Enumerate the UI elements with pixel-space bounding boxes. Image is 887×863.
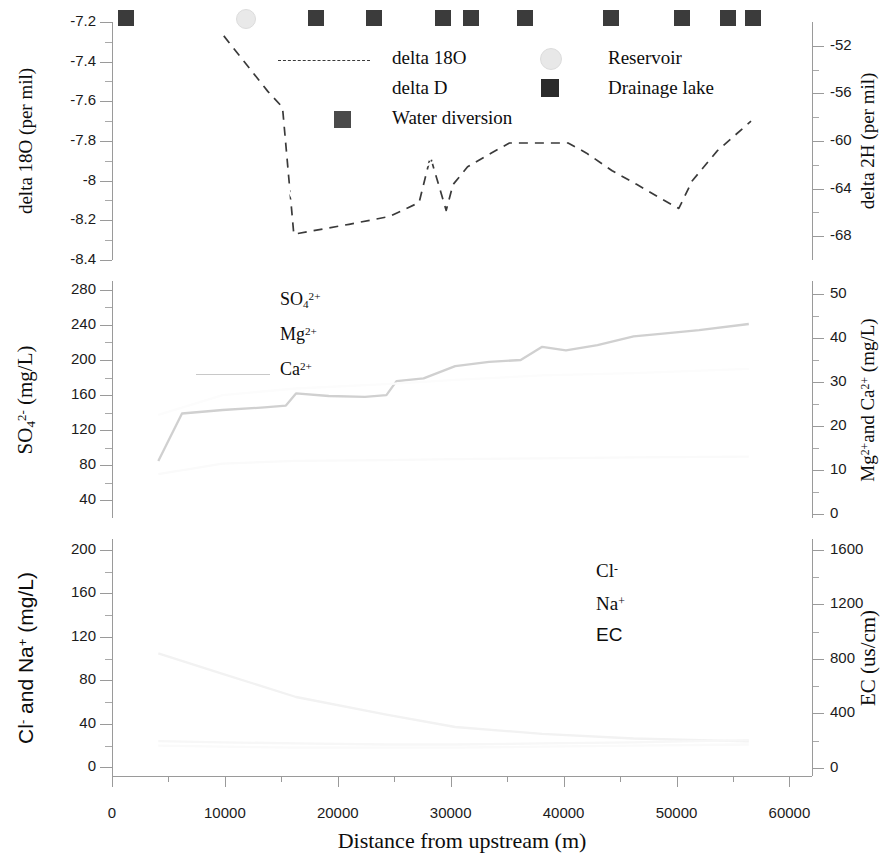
series-line	[224, 36, 751, 234]
multi-panel-chart: delta 18Odelta DWater diversionReservoir…	[0, 0, 887, 863]
series-line	[158, 457, 749, 475]
series-line	[224, 64, 751, 201]
series-layer	[0, 0, 887, 863]
series-line	[158, 740, 749, 744]
series-line	[158, 653, 749, 741]
